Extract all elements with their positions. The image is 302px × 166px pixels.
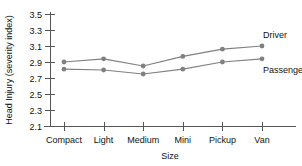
x-axis-tick-label: Medium xyxy=(127,135,159,145)
x-axis-tick-label: Compact xyxy=(46,135,83,145)
x-axis-tick-label: Pickup xyxy=(209,135,236,145)
y-axis-tick-labels: 2.12.32.52.72.93.13.33.5 xyxy=(29,10,42,132)
series-inline-labels: DriverPassenger xyxy=(263,30,302,75)
y-axis-title: Head Injury (severity index) xyxy=(4,15,14,125)
data-point-marker xyxy=(101,56,106,61)
data-point-marker xyxy=(141,72,146,77)
x-axis-tick-label: Van xyxy=(254,135,269,145)
y-axis-tick-label: 2.9 xyxy=(29,58,42,68)
data-point-marker xyxy=(62,60,67,65)
x-axis-tick-labels: CompactLightMediumMiniPickupVan xyxy=(46,135,270,145)
data-point-marker xyxy=(260,56,265,61)
x-axis: CompactLightMediumMiniPickupVan Size xyxy=(44,122,296,161)
series-label-driver: Driver xyxy=(263,30,287,40)
data-point-marker xyxy=(220,60,225,65)
y-axis-tick-label: 2.1 xyxy=(29,122,42,132)
y-axis-tick-label: 3.3 xyxy=(29,26,42,36)
data-point-marker xyxy=(141,64,146,69)
data-point-marker xyxy=(62,67,67,72)
data-point-marker xyxy=(220,47,225,52)
plot-series-group xyxy=(62,44,265,77)
y-axis: 2.12.32.52.72.93.13.33.5 Head Injury (se… xyxy=(4,10,55,132)
head-injury-line-chart: 2.12.32.52.72.93.13.33.5 Head Injury (se… xyxy=(0,0,302,166)
data-point-marker xyxy=(101,68,106,73)
x-axis-tick-label: Light xyxy=(94,135,114,145)
y-axis-tick-label: 2.5 xyxy=(29,90,42,100)
x-axis-title: Size xyxy=(161,151,179,161)
data-point-marker xyxy=(180,54,185,59)
x-axis-tick-label: Mini xyxy=(175,135,192,145)
data-point-marker xyxy=(180,67,185,72)
y-axis-tick-label: 3.5 xyxy=(29,10,42,20)
chart-canvas: 2.12.32.52.72.93.13.33.5 Head Injury (se… xyxy=(0,0,302,166)
data-point-marker xyxy=(260,44,265,49)
series-line-driver xyxy=(64,46,262,66)
y-axis-tick-label: 3.1 xyxy=(29,42,42,52)
y-axis-tick-label: 2.7 xyxy=(29,74,42,84)
y-axis-tick-label: 2.3 xyxy=(29,106,42,116)
series-label-passenger: Passenger xyxy=(263,65,302,75)
